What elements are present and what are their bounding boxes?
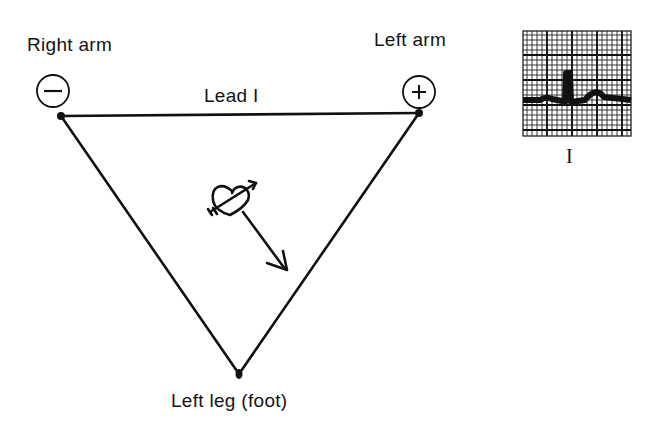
triangle [61,113,419,374]
left-side-line [61,116,239,374]
negative-electrode-icon [37,75,69,107]
right-arm-label: Right arm [27,34,112,56]
lead-i-label: Lead I [204,85,259,107]
cardiac-vector-arrow-icon [243,212,287,270]
einthoven-triangle-diagram [0,0,647,430]
left-arm-vertex [415,109,423,117]
lead-i-line [61,113,419,116]
left-arm-label: Left arm [374,29,446,51]
left-leg-label: Left leg (foot) [171,390,287,412]
heart-with-arrow-icon [208,181,256,215]
left-leg-vertex [236,369,243,379]
positive-electrode-icon [403,76,435,108]
right-arm-vertex [57,112,65,120]
ecg-lead-label: I [566,145,573,168]
ecg-strip [523,31,631,136]
